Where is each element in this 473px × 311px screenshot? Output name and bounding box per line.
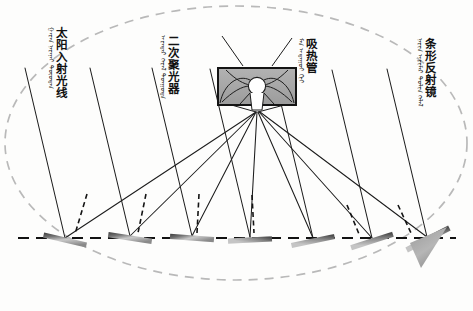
reflected-ray-2 xyxy=(130,112,256,236)
mirror-field xyxy=(43,226,451,268)
normal-5 xyxy=(347,205,359,234)
figure-root: ᠭᠠᠷᠠᠨ ᠨᠠᠷᠠᠨᠠᠢ ᠲᠥᠣᠳᠠᠨ 太阳入射光线 ᠠᠷᠠᠲᠠᠷ ᠭᠡᠷᠡᠯ… xyxy=(0,0,473,311)
normal-6 xyxy=(398,205,411,233)
reflected-ray-1 xyxy=(65,112,256,238)
absorber-tube[interactable] xyxy=(248,77,265,94)
reflected-ray-4 xyxy=(250,112,257,237)
mirror-7-support-wedge xyxy=(410,227,447,268)
mirror-6[interactable] xyxy=(350,232,393,251)
incident-ray-3 xyxy=(152,68,192,236)
incident-ray-2 xyxy=(90,68,130,236)
normal-3 xyxy=(197,194,199,233)
absorber-neck xyxy=(250,93,264,110)
fresnel-diagram-svg xyxy=(0,0,473,311)
pointer-line-absorber xyxy=(272,38,292,66)
reflected-ray-3 xyxy=(192,112,256,236)
incident-ray-1 xyxy=(25,68,65,238)
pointer-line-secondary xyxy=(222,36,243,66)
mirror-normal-group xyxy=(75,194,411,234)
incident-ray-6 xyxy=(332,70,372,238)
receiver-assembly[interactable] xyxy=(218,36,296,110)
reflected-ray-6 xyxy=(259,112,372,238)
